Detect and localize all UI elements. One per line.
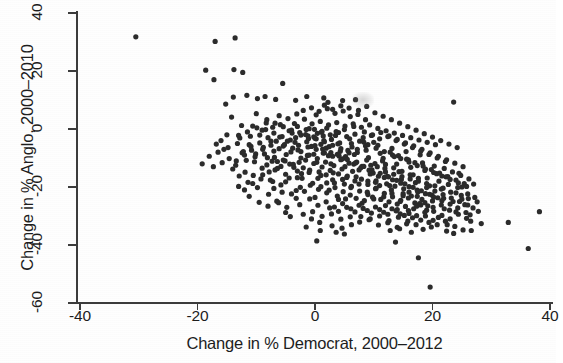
data-point (329, 137, 334, 142)
data-point (304, 139, 309, 144)
data-point (296, 143, 301, 148)
data-point (233, 35, 238, 40)
data-point (263, 127, 268, 132)
data-point (435, 222, 440, 227)
data-point (235, 141, 240, 146)
data-point (413, 222, 418, 227)
data-point (230, 166, 235, 171)
data-point (303, 157, 308, 162)
data-point (254, 125, 259, 130)
data-point (453, 190, 458, 195)
data-point (301, 165, 306, 170)
data-point (458, 173, 463, 178)
data-point (359, 177, 364, 182)
y-tick-mark (68, 128, 76, 130)
data-point (430, 205, 435, 210)
data-point (336, 153, 341, 158)
data-point (315, 203, 320, 208)
data-point (339, 166, 344, 171)
data-point (456, 212, 461, 217)
data-point (357, 139, 362, 144)
data-point (448, 216, 453, 221)
data-point (321, 95, 326, 100)
data-point (422, 131, 427, 136)
data-point (309, 216, 314, 221)
data-point (394, 178, 399, 183)
data-point (305, 144, 310, 149)
data-point (406, 195, 411, 200)
data-point (267, 169, 272, 174)
data-point (272, 121, 277, 126)
data-point (312, 195, 317, 200)
data-point (392, 184, 397, 189)
data-point (448, 177, 453, 182)
data-point (357, 219, 362, 224)
data-point (328, 132, 333, 137)
data-point (439, 213, 444, 218)
data-point (336, 209, 341, 214)
data-point (403, 149, 408, 154)
data-point (399, 174, 404, 179)
data-point (469, 228, 474, 233)
data-point (419, 147, 424, 152)
data-point (408, 172, 413, 177)
x-tick-label: 0 (292, 307, 338, 325)
data-point (465, 202, 470, 207)
data-point (448, 190, 453, 195)
x-tick-label: -40 (57, 307, 103, 325)
data-point (224, 132, 229, 137)
data-point (374, 178, 379, 183)
data-point (422, 210, 427, 215)
data-point (416, 137, 421, 142)
data-point (401, 191, 406, 196)
data-point (362, 198, 367, 203)
data-point (365, 182, 370, 187)
data-point (348, 193, 353, 198)
data-point (402, 213, 407, 218)
data-point (369, 211, 374, 216)
data-point (408, 165, 413, 170)
data-point (400, 133, 405, 138)
data-point (353, 97, 358, 102)
data-point (386, 133, 391, 138)
data-point (332, 185, 337, 190)
data-point (330, 143, 335, 148)
data-point (281, 124, 286, 129)
data-point (456, 180, 461, 185)
data-point (207, 154, 212, 159)
data-point (351, 124, 356, 129)
data-point (381, 114, 386, 119)
data-point (301, 212, 306, 217)
data-point (381, 156, 386, 161)
data-point (446, 141, 451, 146)
data-point (439, 202, 444, 207)
data-point (386, 174, 391, 179)
data-point (298, 149, 303, 154)
data-point (361, 164, 366, 169)
data-point (388, 228, 393, 233)
data-point (439, 173, 444, 178)
data-point (371, 140, 376, 145)
data-point (255, 185, 260, 190)
data-point (314, 238, 319, 243)
data-point (322, 139, 327, 144)
data-point (304, 224, 309, 229)
data-point (382, 149, 387, 154)
data-point (409, 230, 414, 235)
data-point (292, 121, 297, 126)
data-point (285, 139, 290, 144)
data-point (428, 150, 433, 155)
data-point (332, 180, 337, 185)
data-point (466, 196, 471, 201)
data-point (348, 214, 353, 219)
data-point (302, 189, 307, 194)
data-point (291, 162, 296, 167)
data-point (356, 108, 361, 113)
data-point (297, 202, 302, 207)
data-point (398, 199, 403, 204)
data-point (237, 173, 242, 178)
data-point (307, 168, 312, 173)
data-point (299, 171, 304, 176)
data-point (340, 177, 345, 182)
